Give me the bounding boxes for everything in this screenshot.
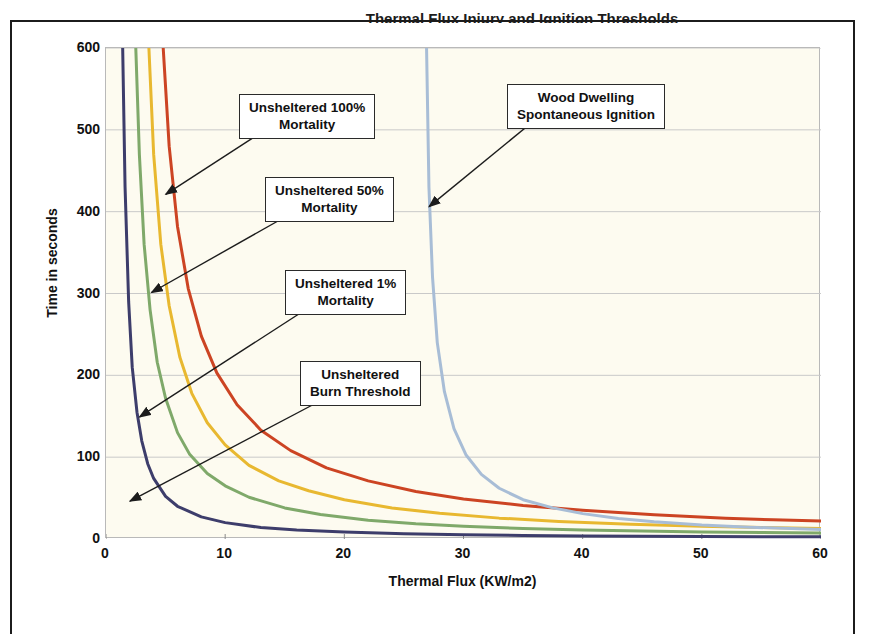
x-tick-0: 0 [75,545,135,561]
annotation-callout-wood-dwelling-spontaneous-ignition: Wood Dwelling Spontaneous Ignition [507,84,665,129]
y-tick-500: 500 [54,121,100,137]
series-curves [123,48,821,537]
x-tick-30: 30 [433,545,493,561]
gridlines [106,48,821,539]
y-tick-600: 600 [54,39,100,55]
y-tick-100: 100 [54,448,100,464]
y-axis-tick-labels: 0100200300400500600 [48,47,100,538]
plot-svg [106,48,821,539]
annotation-callout-unsheltered-50-mortality: Unsheltered 50% Mortality [265,177,394,222]
x-tick-10: 10 [194,545,254,561]
chart-figure: Time in seconds 0100200300400500600 0102… [12,22,857,634]
annotation-callout-unsheltered-burn-threshold: Unsheltered Burn Threshold [300,361,421,406]
x-tick-50: 50 [671,545,731,561]
y-tick-300: 300 [54,285,100,301]
annotation-callout-unsheltered-1-mortality: Unsheltered 1% Mortality [285,270,406,315]
x-axis-title: Thermal Flux (KW/m2) [105,573,820,589]
document-page-frame: Thermal Flux Injury and Ignition Thresho… [10,20,855,634]
annotation-callout-unsheltered-100-mortality: Unsheltered 100% Mortality [239,94,375,139]
x-tick-20: 20 [313,545,373,561]
x-axis-tick-labels: 0102030405060 [105,545,820,565]
x-tick-40: 40 [552,545,612,561]
plot-area [105,47,820,538]
y-tick-0: 0 [54,530,100,546]
y-tick-400: 400 [54,203,100,219]
y-tick-200: 200 [54,366,100,382]
x-tick-60: 60 [790,545,850,561]
